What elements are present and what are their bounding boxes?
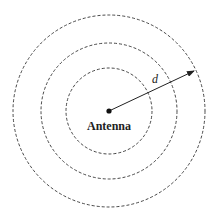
antenna-radiation-diagram: d Antenna (0, 0, 217, 222)
antenna-dot-icon (106, 108, 111, 113)
diagram-canvas (0, 0, 217, 222)
distance-label: d (152, 72, 158, 87)
antenna-label: Antenna (84, 119, 134, 134)
